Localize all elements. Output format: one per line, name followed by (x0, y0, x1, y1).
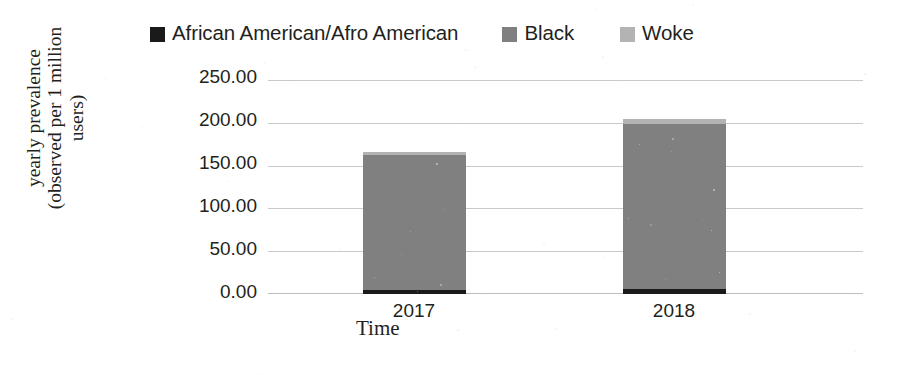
paper-speckle (602, 56, 604, 58)
y-axis-tick: 250.00 (165, 66, 257, 88)
paper-speckle (135, 137, 136, 138)
legend-swatch-icon (620, 27, 635, 42)
paper-speckle (0, 106, 1, 107)
paper-speckle (407, 69, 408, 70)
chart-figure: African American/Afro American Black Wok… (0, 0, 916, 375)
paper-speckle (530, 5, 531, 6)
paper-speckle (104, 78, 106, 80)
legend-swatch-icon (150, 27, 165, 42)
bar-2017[interactable] (363, 152, 466, 294)
legend-item-woke[interactable]: Woke (620, 21, 694, 45)
paper-speckle (421, 72, 422, 73)
paper-speckle (713, 347, 714, 348)
bar-segment-african-american (363, 290, 466, 294)
legend-item-label: Woke (642, 21, 694, 45)
paper-speckle (27, 348, 28, 349)
y-axis-title-line3: users) (66, 0, 88, 243)
legend-item-label: Black (524, 21, 574, 45)
y-axis-tick: 100.00 (165, 195, 257, 217)
paper-speckle (115, 217, 116, 218)
paper-speckle (511, 75, 513, 77)
paper-speckle (911, 238, 912, 239)
paper-speckle (147, 287, 148, 288)
paper-speckle (9, 108, 10, 109)
bar-segment-black (363, 155, 466, 290)
paper-speckle (54, 328, 55, 329)
paper-speckle (0, 45, 1, 46)
paper-speckle (869, 108, 870, 109)
paper-speckle (501, 297, 502, 298)
chart-legend: African American/Afro American Black Wok… (150, 18, 790, 48)
y-axis-tick: 50.00 (165, 238, 257, 260)
paper-speckle (911, 15, 912, 16)
paper-speckle (144, 185, 145, 186)
paper-speckle (25, 269, 26, 270)
paper-speckle (11, 318, 13, 320)
gridline-50 (268, 251, 863, 252)
paper-speckle (101, 171, 102, 172)
paper-speckle (817, 26, 818, 27)
gridline-250 (268, 80, 863, 81)
bar-segment-african-american (623, 289, 726, 294)
paper-speckle (624, 370, 625, 371)
paper-speckle (516, 49, 517, 50)
paper-speckle (274, 296, 275, 297)
gridline-150 (268, 166, 863, 167)
paper-speckle (596, 8, 598, 10)
paper-speckle (128, 97, 130, 99)
paper-speckle (474, 66, 476, 68)
paper-speckle (902, 199, 903, 200)
plot-area (268, 80, 863, 294)
paper-speckle (98, 1, 99, 2)
paper-speckle (258, 374, 259, 375)
paper-speckle (8, 88, 9, 89)
paper-speckle (160, 310, 161, 311)
paper-speckle (840, 342, 841, 343)
paper-speckle (867, 113, 868, 114)
paper-speckle (893, 96, 894, 97)
legend-item-african-american[interactable]: African American/Afro American (150, 21, 458, 45)
paper-speckle (115, 182, 116, 183)
paper-speckle (311, 56, 312, 57)
paper-speckle (117, 106, 118, 107)
paper-speckle (141, 126, 143, 128)
gridline-200 (268, 123, 863, 124)
gridline-0 (268, 293, 863, 294)
bar-2018[interactable] (623, 119, 726, 294)
bar-segment-black (623, 124, 726, 289)
paper-speckle (767, 346, 768, 347)
x-axis-title: Time (268, 316, 656, 341)
paper-speckle (261, 70, 262, 71)
paper-speckle (914, 79, 915, 80)
paper-speckle (361, 295, 362, 296)
legend-item-label: African American/Afro American (172, 21, 458, 45)
paper-speckle (12, 329, 13, 330)
y-axis-tick: 150.00 (165, 152, 257, 174)
y-axis-tick: 0.00 (165, 281, 257, 303)
paper-speckle (621, 351, 622, 352)
paper-speckle (682, 337, 683, 338)
paper-speckle (113, 320, 114, 321)
paper-speckle (692, 4, 694, 6)
legend-swatch-icon (502, 27, 517, 42)
paper-speckle (151, 235, 152, 236)
paper-speckle (155, 119, 156, 120)
y-axis-title-line2: (observed per 1 million (44, 0, 66, 243)
paper-speckle (123, 339, 124, 340)
paper-speckle (109, 309, 110, 310)
paper-speckle (864, 73, 866, 75)
paper-speckle (73, 289, 74, 290)
paper-speckle (676, 60, 677, 61)
gridline-100 (268, 208, 863, 209)
paper-speckle (854, 350, 856, 352)
y-axis-title: yearly prevalence (observed per 1 millio… (25, 0, 85, 243)
paper-speckle (264, 62, 266, 64)
y-axis-tick: 200.00 (165, 109, 257, 131)
legend-item-black[interactable]: Black (502, 21, 574, 45)
paper-speckle (465, 49, 467, 51)
paper-speckle (904, 117, 905, 118)
paper-speckle (144, 337, 145, 338)
y-axis-title-line1: yearly prevalence (23, 0, 45, 243)
y-axis-tick-labels: 250.00 200.00 150.00 100.00 50.00 0.00 (165, 66, 257, 306)
paper-speckle (617, 347, 618, 348)
